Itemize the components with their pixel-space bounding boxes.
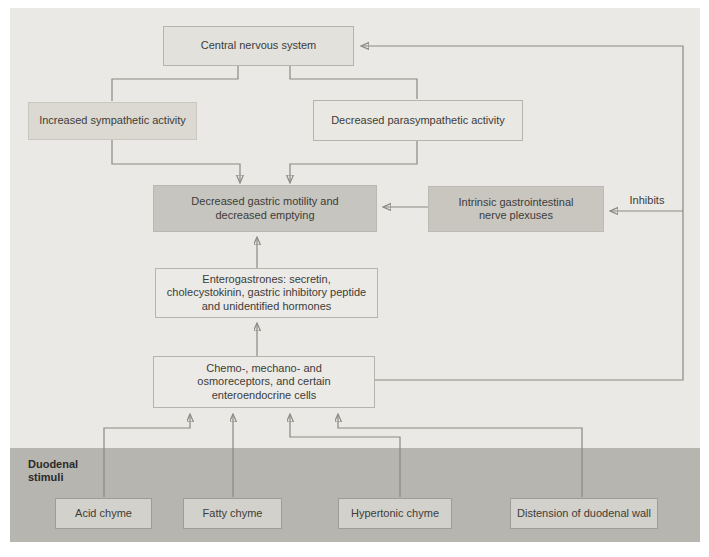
node-label: Fatty chyme — [203, 507, 263, 520]
node-label: Decreased gastric motility and decreased… — [180, 195, 350, 222]
node-label: Increased sympathetic activity — [39, 114, 186, 127]
node-intrinsic-gastrointestinal-nerve-plexuses: Intrinsic gastrointestinal nerve plexuse… — [428, 186, 604, 232]
node-distension-of-duodenal-wall: Distension of duodenal wall — [510, 498, 658, 529]
node-label: Intrinsic gastrointestinal nerve plexuse… — [445, 196, 587, 223]
node-label: Acid chyme — [75, 507, 132, 520]
node-enterogastrones: Enterogastrones: secretin, cholecystokin… — [155, 268, 378, 318]
node-decreased-gastric-motility: Decreased gastric motility and decreased… — [153, 185, 377, 232]
duodenal-stimuli-heading: Duodenal stimuli — [28, 458, 90, 483]
node-label: Chemo-, mechano- and osmoreceptors, and … — [168, 362, 360, 402]
node-label: Enterogastrones: secretin, cholecystokin… — [162, 273, 371, 313]
node-label: Distension of duodenal wall — [517, 507, 651, 520]
node-acid-chyme: Acid chyme — [55, 498, 152, 529]
node-receptors-enteroendocrine-cells: Chemo-, mechano- and osmoreceptors, and … — [153, 356, 375, 408]
node-label: Decreased parasympathetic activity — [331, 114, 505, 127]
node-central-nervous-system: Central nervous system — [163, 26, 354, 66]
node-hypertonic-chyme: Hypertonic chyme — [338, 498, 452, 529]
node-fatty-chyme: Fatty chyme — [183, 498, 282, 529]
node-label: Central nervous system — [201, 39, 317, 52]
node-increased-sympathetic-activity: Increased sympathetic activity — [28, 102, 197, 140]
inhibits-arrow-label: Inhibits — [612, 194, 682, 206]
node-decreased-parasympathetic-activity: Decreased parasympathetic activity — [313, 100, 523, 141]
node-label: Hypertonic chyme — [351, 507, 439, 520]
